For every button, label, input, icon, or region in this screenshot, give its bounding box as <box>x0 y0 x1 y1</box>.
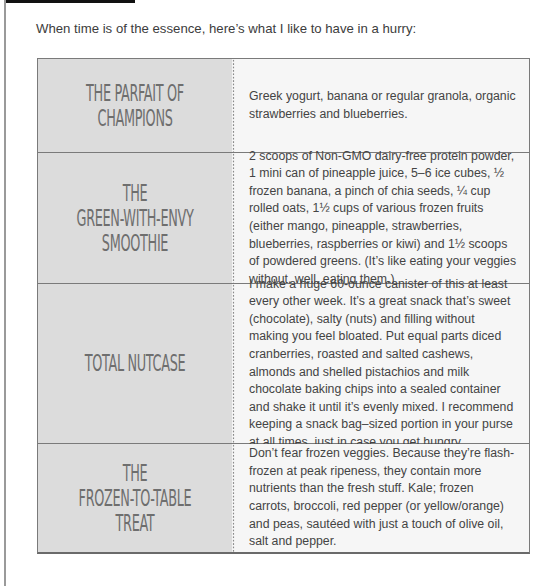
meal-description: Don’t fear frozen veggies. Because they’… <box>249 445 517 551</box>
meal-title: THE PARFAIT OF CHAMPIONS <box>42 81 228 131</box>
title-cell: THE GREEN-WITH-ENVY SMOOTHIE <box>38 153 232 283</box>
title-cell: THE PARFAIT OF CHAMPIONS <box>38 59 232 152</box>
description-cell: I make a huge 60-ounce canister of this … <box>235 284 529 443</box>
meal-description: Greek yogurt, banana or regular granola,… <box>249 88 517 123</box>
quick-meals-table: THE PARFAIT OF CHAMPIONS Greek yogurt, b… <box>37 58 530 554</box>
table-row: THE FROZEN-TO-TABLE TREAT Don’t fear fro… <box>38 443 529 552</box>
header-bar <box>6 0 135 3</box>
meal-description: 2 scoops of Non-GMO dairy-free protein p… <box>249 148 517 289</box>
page-edge-line <box>4 0 6 586</box>
meal-title: THE GREEN-WITH-ENVY SMOOTHIE <box>42 181 228 256</box>
table-row: THE PARFAIT OF CHAMPIONS Greek yogurt, b… <box>38 59 529 152</box>
title-cell: TOTAL NUTCASE <box>38 284 232 443</box>
meal-title: THE FROZEN-TO-TABLE TREAT <box>42 461 228 536</box>
title-cell: THE FROZEN-TO-TABLE TREAT <box>38 444 232 552</box>
meal-title: TOTAL NUTCASE <box>42 351 228 376</box>
description-cell: 2 scoops of Non-GMO dairy-free protein p… <box>235 153 529 283</box>
table-row: TOTAL NUTCASE I make a huge 60-ounce can… <box>38 283 529 443</box>
description-cell: Don’t fear frozen veggies. Because they’… <box>235 444 529 552</box>
description-cell: Greek yogurt, banana or regular granola,… <box>235 59 529 152</box>
meal-description: I make a huge 60-ounce canister of this … <box>249 276 517 452</box>
intro-text: When time is of the essence, here’s what… <box>36 21 536 37</box>
table-row: THE GREEN-WITH-ENVY SMOOTHIE 2 scoops of… <box>38 152 529 283</box>
